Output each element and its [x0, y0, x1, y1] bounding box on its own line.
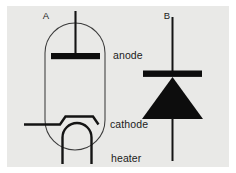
label-cathode: cathode	[110, 118, 148, 130]
diagram-b-semiconductor-diode	[142, 17, 203, 161]
label-heater: heater	[111, 152, 142, 164]
heater-filament	[63, 123, 92, 164]
panel-label-a: A	[43, 10, 50, 21]
diagram-a-vacuum-tube	[24, 11, 105, 164]
figure-root: A B anode cathode heater	[0, 0, 236, 173]
figure-panel: A B anode cathode heater	[7, 6, 229, 167]
diode-cathode-bar	[143, 71, 202, 77]
diode-triangle-body	[142, 77, 203, 119]
cathode	[24, 117, 99, 125]
panel-label-b: B	[164, 10, 170, 21]
anode-plate	[51, 53, 100, 59]
label-anode: anode	[113, 49, 143, 61]
diagram-canvas: A B anode cathode heater	[7, 6, 229, 167]
